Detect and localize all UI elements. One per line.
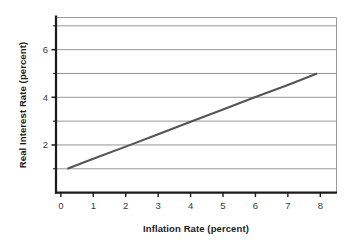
x-tick-label-2: 2 (123, 200, 128, 211)
x-tick-label-8: 8 (318, 200, 323, 211)
y-tick-label-4: 4 (43, 92, 48, 103)
x-tick-label-6: 6 (253, 200, 258, 211)
y-tick-label-6: 6 (43, 44, 48, 55)
x-tick-label-0: 0 (58, 200, 63, 211)
plot-area-background (56, 18, 337, 194)
x-tick-label-1: 1 (91, 200, 96, 211)
x-tick-label-5: 5 (220, 200, 225, 211)
chart-canvas: 246 012345678 Inflation Rate (percent) R… (0, 0, 356, 244)
y-tick-label-2: 2 (43, 139, 48, 150)
chart-figure: 246 012345678 Inflation Rate (percent) R… (0, 0, 356, 244)
x-axis-title: Inflation Rate (percent) (143, 223, 249, 234)
x-tick-label-3: 3 (156, 200, 161, 211)
x-tick-label-4: 4 (188, 200, 193, 211)
x-tick-label-7: 7 (285, 200, 290, 211)
y-axis-title: Real Interest Rate (percent) (17, 42, 28, 168)
